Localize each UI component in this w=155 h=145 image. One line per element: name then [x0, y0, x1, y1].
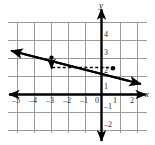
- y-tick-label: 1: [104, 83, 108, 91]
- coordinate-plane-figure: y x –5 –4 –3 –2 –1 0 1 2 4 3 2 1 –1 –2: [0, 0, 155, 145]
- y-tick-label: –2: [104, 121, 112, 129]
- graph-canvas: [0, 0, 155, 145]
- x-tick-label: –3: [46, 97, 54, 105]
- y-tick-label: 4: [104, 31, 108, 39]
- y-tick-label: 3: [104, 49, 108, 57]
- point-marker-left: [49, 55, 53, 59]
- y-tick-label: –1: [104, 103, 112, 111]
- point-marker-right: [111, 66, 116, 71]
- x-tick-label: –2: [63, 97, 71, 105]
- x-tick-label: –4: [29, 97, 37, 105]
- grid-lines: [8, 22, 147, 133]
- x-tick-label: –1: [80, 97, 88, 105]
- y-tick-label: 2: [104, 67, 108, 75]
- axis-lines: [9, 9, 146, 141]
- y-axis-label: y: [99, 1, 103, 10]
- x-tick-label: 1: [113, 97, 117, 105]
- x-tick-label: –5: [12, 97, 20, 105]
- x-tick-label-origin: 0: [95, 97, 99, 105]
- x-axis-label: x: [145, 90, 149, 99]
- x-tick-label: 2: [130, 97, 134, 105]
- line-arrow-right: [18, 53, 141, 84]
